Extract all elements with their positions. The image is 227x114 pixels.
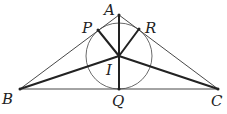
label-p: P <box>81 19 93 37</box>
segment-ib <box>20 56 119 89</box>
point-r-dot <box>138 28 141 31</box>
label-r: R <box>144 19 156 37</box>
segment-ic <box>119 56 218 89</box>
label-a: A <box>102 1 115 19</box>
label-b: B <box>1 90 13 108</box>
point-q-dot <box>118 88 121 91</box>
label-q: Q <box>112 92 124 110</box>
segment-ip <box>98 30 119 56</box>
segment-ir <box>119 29 139 56</box>
point-c-dot <box>217 88 220 91</box>
label-c: C <box>211 92 223 110</box>
point-a-dot <box>118 14 121 17</box>
incircle-triangle-diagram: A B C P R I Q <box>0 0 227 114</box>
point-p-dot <box>97 29 100 32</box>
label-i: I <box>105 61 113 79</box>
point-b-dot <box>19 88 22 91</box>
